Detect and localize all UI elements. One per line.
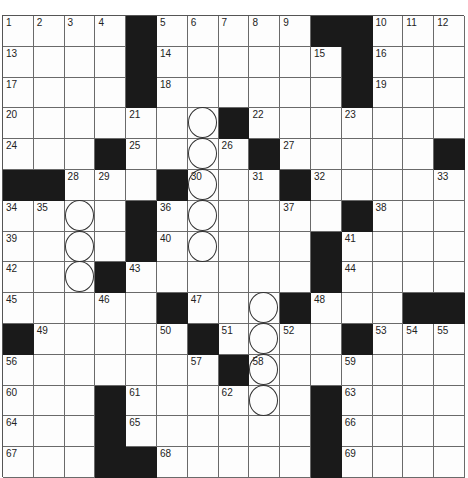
grid-cell[interactable]: 25 <box>126 139 157 170</box>
grid-cell[interactable] <box>403 78 434 109</box>
grid-cell[interactable] <box>280 78 311 109</box>
grid-cell[interactable] <box>157 108 188 139</box>
grid-cell[interactable] <box>403 170 434 201</box>
grid-cell[interactable] <box>311 108 342 139</box>
grid-cell[interactable] <box>34 262 65 293</box>
grid-cell[interactable]: 56 <box>3 355 34 386</box>
grid-cell[interactable] <box>403 201 434 232</box>
grid-cell[interactable] <box>403 232 434 263</box>
grid-cell[interactable] <box>434 262 465 293</box>
grid-cell[interactable] <box>95 78 126 109</box>
grid-cell[interactable] <box>95 355 126 386</box>
grid-cell[interactable]: 18 <box>157 78 188 109</box>
grid-cell[interactable] <box>403 262 434 293</box>
grid-cell[interactable]: 13 <box>3 47 34 78</box>
grid-cell[interactable]: 34 <box>3 201 34 232</box>
grid-cell[interactable]: 10 <box>373 16 404 47</box>
grid-cell[interactable] <box>373 447 404 478</box>
grid-cell[interactable] <box>219 47 250 78</box>
grid-cell[interactable] <box>280 386 311 417</box>
grid-cell[interactable] <box>373 232 404 263</box>
grid-cell[interactable]: 48 <box>311 293 342 324</box>
grid-cell[interactable] <box>373 262 404 293</box>
grid-cell[interactable]: 39 <box>3 232 34 263</box>
grid-cell[interactable]: 14 <box>157 47 188 78</box>
grid-cell[interactable] <box>34 293 65 324</box>
grid-cell[interactable] <box>434 47 465 78</box>
grid-cell[interactable] <box>403 447 434 478</box>
grid-cell[interactable]: 42 <box>3 262 34 293</box>
grid-cell[interactable] <box>188 262 219 293</box>
grid-cell[interactable] <box>219 78 250 109</box>
grid-cell[interactable] <box>249 447 280 478</box>
grid-cell[interactable] <box>65 78 96 109</box>
grid-cell[interactable] <box>280 47 311 78</box>
grid-cell[interactable] <box>249 386 280 417</box>
grid-cell[interactable] <box>126 355 157 386</box>
grid-cell[interactable]: 54 <box>403 324 434 355</box>
grid-cell[interactable] <box>34 139 65 170</box>
grid-cell[interactable] <box>280 355 311 386</box>
grid-cell[interactable] <box>188 47 219 78</box>
grid-cell[interactable] <box>34 447 65 478</box>
grid-cell[interactable]: 66 <box>342 416 373 447</box>
grid-cell[interactable] <box>280 232 311 263</box>
grid-cell[interactable] <box>65 232 96 263</box>
grid-cell[interactable]: 11 <box>403 16 434 47</box>
grid-cell[interactable] <box>403 108 434 139</box>
grid-cell[interactable]: 33 <box>434 170 465 201</box>
grid-cell[interactable] <box>157 139 188 170</box>
grid-cell[interactable] <box>403 386 434 417</box>
grid-cell[interactable] <box>280 262 311 293</box>
grid-cell[interactable]: 17 <box>3 78 34 109</box>
grid-cell[interactable] <box>219 416 250 447</box>
grid-cell[interactable] <box>434 355 465 386</box>
grid-cell[interactable] <box>188 386 219 417</box>
grid-cell[interactable] <box>65 355 96 386</box>
grid-cell[interactable]: 6 <box>188 16 219 47</box>
grid-cell[interactable]: 1 <box>3 16 34 47</box>
grid-cell[interactable]: 21 <box>126 108 157 139</box>
grid-cell[interactable] <box>280 447 311 478</box>
grid-cell[interactable] <box>157 416 188 447</box>
grid-cell[interactable] <box>65 139 96 170</box>
grid-cell[interactable] <box>34 47 65 78</box>
grid-cell[interactable] <box>434 232 465 263</box>
grid-cell[interactable]: 8 <box>249 16 280 47</box>
grid-cell[interactable]: 46 <box>95 293 126 324</box>
grid-cell[interactable] <box>249 324 280 355</box>
grid-cell[interactable] <box>95 47 126 78</box>
grid-cell[interactable] <box>188 78 219 109</box>
grid-cell[interactable]: 50 <box>157 324 188 355</box>
grid-cell[interactable]: 61 <box>126 386 157 417</box>
grid-cell[interactable] <box>219 201 250 232</box>
grid-cell[interactable] <box>219 170 250 201</box>
grid-cell[interactable] <box>249 232 280 263</box>
grid-cell[interactable] <box>65 47 96 78</box>
grid-cell[interactable]: 59 <box>342 355 373 386</box>
grid-cell[interactable]: 5 <box>157 16 188 47</box>
grid-cell[interactable]: 68 <box>157 447 188 478</box>
grid-cell[interactable]: 29 <box>95 170 126 201</box>
grid-cell[interactable] <box>434 416 465 447</box>
grid-cell[interactable] <box>188 232 219 263</box>
grid-cell[interactable] <box>95 232 126 263</box>
grid-cell[interactable] <box>157 262 188 293</box>
grid-cell[interactable]: 64 <box>3 416 34 447</box>
grid-cell[interactable] <box>403 47 434 78</box>
grid-cell[interactable] <box>249 293 280 324</box>
grid-cell[interactable] <box>34 78 65 109</box>
grid-cell[interactable] <box>403 139 434 170</box>
grid-cell[interactable]: 37 <box>280 201 311 232</box>
grid-cell[interactable]: 38 <box>373 201 404 232</box>
grid-cell[interactable] <box>126 170 157 201</box>
grid-cell[interactable] <box>249 416 280 447</box>
grid-cell[interactable]: 27 <box>280 139 311 170</box>
grid-cell[interactable] <box>373 170 404 201</box>
grid-cell[interactable] <box>219 293 250 324</box>
grid-cell[interactable]: 31 <box>249 170 280 201</box>
grid-cell[interactable]: 3 <box>65 16 96 47</box>
grid-cell[interactable] <box>65 262 96 293</box>
grid-cell[interactable]: 16 <box>373 47 404 78</box>
grid-cell[interactable] <box>95 324 126 355</box>
